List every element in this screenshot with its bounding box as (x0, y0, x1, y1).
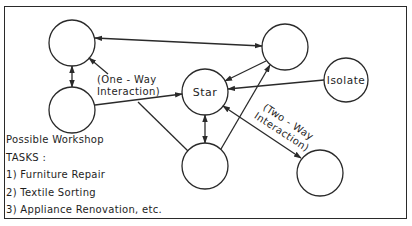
one-way-label: (One - Way Interaction) (97, 74, 160, 98)
edge-topright-star (225, 61, 266, 81)
caption-heading-2: TASKS : (6, 149, 162, 167)
one-way-label-line2: Interaction) (97, 86, 160, 98)
edge-isolate-star (228, 80, 324, 89)
node-mid-left (49, 87, 95, 133)
node-bottom-center (182, 143, 228, 189)
task-item: 2) Textile Sorting (6, 184, 162, 202)
sociogram-diagram: Star Isolate (One - Way Interaction) (Tw… (0, 0, 412, 226)
task-item: 3) Appliance Renovation, etc. (6, 201, 162, 219)
star-label: Star (193, 86, 218, 99)
node-top-right (262, 24, 308, 70)
node-bottom-right (297, 150, 343, 196)
caption-heading-1: Possible Workshop (6, 131, 162, 149)
isolate-label: Isolate (327, 74, 365, 86)
edge-oneway-pointer (89, 58, 108, 74)
node-top-left (49, 20, 95, 66)
workshop-tasks-caption: Possible Workshop TASKS : 1) Furniture R… (6, 131, 162, 219)
one-way-label-line1: (One - Way (97, 74, 160, 86)
task-item: 1) Furniture Repair (6, 166, 162, 184)
edge-topleft-topright (95, 38, 262, 46)
